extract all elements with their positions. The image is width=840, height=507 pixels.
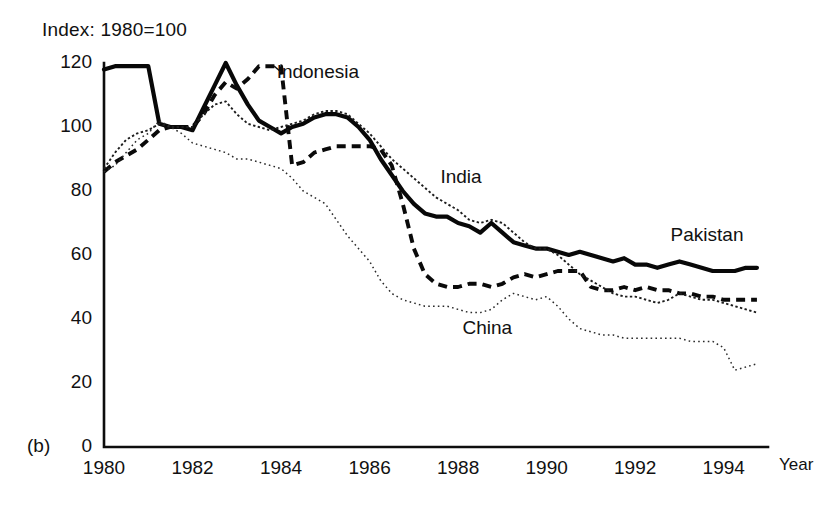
data-series-layer bbox=[104, 63, 757, 370]
axis-lines bbox=[104, 63, 768, 447]
plot-area bbox=[0, 0, 840, 507]
series-line-indonesia bbox=[104, 66, 757, 300]
series-line-pakistan bbox=[104, 63, 757, 271]
series-line-china bbox=[104, 121, 757, 371]
chart-figure: Index: 1980=100 (b) Year 020406080100120… bbox=[0, 0, 840, 507]
